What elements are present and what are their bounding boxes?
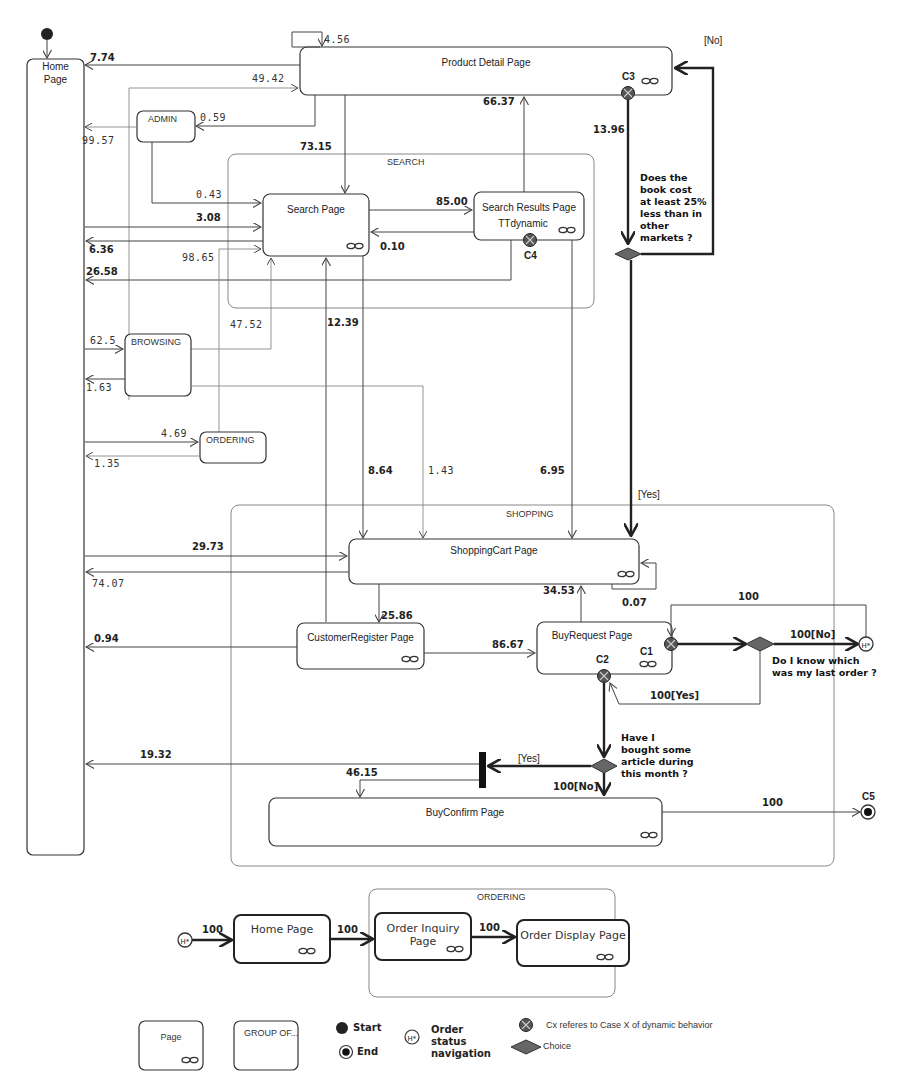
choice-last-order-icon (746, 637, 774, 651)
home-page-node[interactable]: Home Page (27, 59, 84, 855)
label-os-t3: 100 (479, 922, 500, 933)
question-price-line: other (640, 220, 669, 231)
navigation-diagram: SEARCH SHOPPING Home Page Product Detail… (0, 0, 900, 1091)
question-price-line: less than in (640, 208, 702, 219)
label-register-to-search: 12.39 (327, 317, 359, 328)
os-home-page-node[interactable]: Home Page (234, 915, 330, 963)
case-c2-icon[interactable] (598, 670, 611, 683)
browsing-group-node[interactable]: BROWSING (125, 334, 191, 396)
label-buyreq-to-cart: 34.53 (543, 585, 575, 596)
case-c4-label: C4 (524, 250, 537, 261)
label-pd-self: 4.56 (324, 34, 350, 45)
os-home-page-label: Home Page (251, 923, 314, 936)
label-c1-yes: 100[Yes] (650, 690, 699, 701)
label-c3-yes: [Yes] (638, 489, 660, 500)
order-status-diagram: H* 100 Home Page ORDERING 100 Order Inqu… (178, 889, 629, 997)
label-fork-to-confirm: 46.15 (346, 767, 378, 778)
history-start-icon: H* (178, 933, 192, 947)
label-register-to-home: 0.94 (94, 633, 119, 644)
label-cart-to-home: 74.07 (92, 578, 125, 589)
svg-text:H*: H* (408, 1035, 417, 1043)
label-home-to-cart: 29.73 (192, 541, 224, 552)
question-last-order-line: Do I know which (772, 655, 860, 666)
label-sr-to-search: 0.10 (380, 241, 405, 252)
legend-choice-label: Choice (543, 1041, 571, 1051)
label-os-t1: 100 (202, 924, 223, 935)
case-c3-label: C3 (622, 71, 635, 82)
label-os-t2: 100 (337, 924, 358, 935)
case-c3-icon[interactable] (622, 87, 635, 100)
question-bought-line: Have I (621, 732, 655, 743)
admin-group-node[interactable]: ADMIN (137, 111, 195, 142)
ordering-group-node[interactable]: ORDERING (200, 432, 266, 463)
label-search-to-cart: 8.64 (368, 465, 393, 476)
product-detail-page-node[interactable]: Product Detail Page (300, 47, 672, 95)
label-confirm-to-end: 100 (762, 797, 783, 808)
legend-history-icon: H* (405, 1030, 419, 1044)
os-order-display-page-node[interactable]: Order Display Page (517, 920, 629, 966)
history-node-icon[interactable]: H* (859, 637, 873, 651)
label-search-to-sr: 85.00 (436, 196, 468, 207)
group-search-label: SEARCH (387, 157, 425, 167)
search-results-page-node[interactable]: Search Results Page TTdynamic (474, 192, 584, 240)
shopping-cart-page-label: ShoppingCart Page (450, 545, 538, 556)
label-home-to-ordering: 4.69 (161, 428, 187, 439)
case-c2-label: C2 (596, 654, 609, 665)
label-to-pd-49: 49.42 (252, 73, 285, 84)
buy-confirm-page-label: BuyConfirm Page (426, 807, 505, 818)
os-order-inquiry-label-2: Page (410, 935, 437, 948)
label-home-to-browsing: 62.5 (90, 335, 116, 346)
os-order-display-label: Order Display Page (520, 929, 626, 942)
label-browsing-to-search: 47.52 (230, 319, 263, 330)
label-sr-to-cart: 6.95 (540, 465, 565, 476)
case-c1-label: C1 (640, 646, 653, 657)
case-c4-icon[interactable] (524, 234, 537, 247)
legend-start-icon (336, 1022, 348, 1034)
fork-bar-icon (479, 752, 486, 788)
label-admin-to-search: 0.43 (196, 189, 222, 200)
customer-register-page-node[interactable]: CustomerRegister Page (297, 623, 424, 669)
question-bought-line: article during (621, 756, 694, 767)
label-admin-to-home: 99.57 (82, 135, 115, 146)
label-ordering-to-home: 1.35 (94, 458, 120, 469)
case-c1-icon[interactable] (665, 638, 678, 651)
os-order-inquiry-page-node[interactable]: Order Inquiry Page (375, 913, 471, 960)
question-bought-line: bought some (621, 744, 691, 755)
product-detail-page-label: Product Detail Page (442, 57, 531, 68)
label-sr-to-home: 26.58 (86, 266, 118, 277)
home-page-label-1: Home (42, 61, 69, 72)
label-sr-to-pd: 66.37 (483, 96, 515, 107)
question-price-line: Does the (640, 172, 688, 183)
label-c2-no: 100[No] (553, 781, 598, 792)
label-cart-self: 0.07 (622, 597, 647, 608)
end-node-icon (861, 805, 875, 819)
shopping-cart-page-node[interactable]: ShoppingCart Page (349, 539, 639, 584)
legend-case-label: Cx referes to Case X of dynamic behavior (546, 1020, 713, 1030)
label-c3-no: [No] (704, 35, 723, 46)
label-c1-loop: 100 (738, 591, 759, 602)
question-price-line: markets ? (640, 232, 693, 243)
label-pd-to-home: 7.74 (90, 52, 115, 63)
legend-order-nav-line: status (431, 1036, 466, 1047)
legend-case-icon (520, 1019, 533, 1032)
search-page-node[interactable]: Search Page (263, 194, 369, 256)
legend-group-label: GROUP OF... (244, 1028, 298, 1038)
ordering-label: ORDERING (206, 435, 255, 445)
legend-start-label: Start (353, 1022, 382, 1033)
label-pd-to-admin: 0.59 (200, 112, 226, 123)
label-ordering-to-search: 98.65 (182, 252, 215, 263)
browsing-label: BROWSING (131, 337, 181, 347)
legend-end-label: End (357, 1046, 378, 1057)
label-cart-to-register: 25.86 (381, 610, 413, 621)
label-c2-yes: [Yes] (518, 753, 540, 764)
label-register-to-buyreq: 86.67 (492, 639, 524, 650)
search-page-label: Search Page (287, 204, 345, 215)
legend: Page GROUP OF... Start End H* Order stat… (139, 1019, 713, 1071)
label-pd-to-search: 73.15 (300, 141, 332, 152)
buy-confirm-page-node[interactable]: BuyConfirm Page (269, 798, 662, 846)
start-node-icon (41, 28, 53, 40)
label-browsing-to-home: 1.63 (86, 382, 112, 393)
label-fork-to-home: 19.32 (140, 749, 172, 760)
question-bought-line: this month ? (621, 768, 688, 779)
label-browsing-to-cart: 1.43 (428, 465, 454, 476)
